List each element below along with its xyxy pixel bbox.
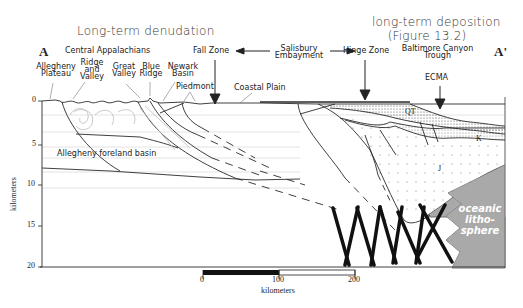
oceanic-line1: oceanic: [455, 203, 505, 214]
section-start-label: A: [39, 45, 48, 58]
heading-long-term-deposition: long-term deposition (Figure 13.2): [372, 16, 482, 42]
heading-deposition-line1: long-term deposition: [372, 16, 482, 28]
label-newark-basin: Newark Basin: [166, 64, 200, 78]
section-end-label: A': [494, 45, 507, 58]
label-allegheny-plateau: Allegheny Plateau: [35, 64, 77, 78]
label-baltimore-canyon-trough: Baltimore Canyon Trough: [400, 46, 475, 60]
label-great-valley: Great Valley: [110, 64, 138, 78]
label-hinge-zone: Hinge Zone: [343, 47, 389, 55]
label-central-appalachians: Central Appalachians: [65, 47, 150, 55]
label-fall-zone: Fall Zone: [193, 47, 229, 55]
label-ridge-and-valley: Ridge and Valley: [78, 59, 106, 81]
heading-figure-ref: (Figure 13.2): [372, 30, 482, 42]
scale-tick-100: 100: [272, 276, 284, 284]
newark-line2: Basin: [166, 71, 200, 78]
depth-axis-label: kilometers: [10, 177, 18, 211]
label-oceanic-lithosphere: oceanic litho- sphere: [455, 203, 505, 236]
depth-tick-10: 10: [27, 180, 35, 188]
label-allegheny-foreland-basin: Allegheny foreland basin: [57, 150, 156, 158]
unit-label-k: K: [476, 135, 482, 143]
heading-long-term-denudation: Long-term denudation: [77, 25, 214, 37]
label-salisbury-embayment: Salisbury Embayment: [268, 46, 330, 60]
depth-tick-5: 5: [32, 140, 36, 148]
label-coastal-plain: Coastal Plain: [234, 84, 286, 92]
scale-tick-0: 0: [200, 276, 204, 284]
unit-label-j: J: [438, 165, 441, 173]
label-blue-ridge: Blue Ridge: [138, 64, 164, 78]
depth-tick-0: 0: [32, 96, 36, 104]
depth-tick-15: 15: [27, 221, 35, 229]
blue-ridge-line2: Ridge: [138, 71, 164, 78]
allegheny-line2: Plateau: [35, 71, 77, 78]
baltimore-line2: Trough: [400, 53, 475, 60]
oceanic-line3: sphere: [455, 225, 505, 236]
unit-label-qt: QT: [405, 108, 416, 116]
oceanic-line2: litho-: [455, 214, 505, 225]
label-ecma: ECMA: [425, 74, 448, 82]
scale-tick-200: 200: [348, 276, 360, 284]
depth-tick-20: 20: [27, 262, 35, 270]
ridge-line3: Valley: [78, 73, 106, 80]
label-piedmont: Piedmont: [176, 83, 214, 91]
salisbury-line2: Embayment: [268, 53, 330, 60]
scale-bar-label: kilometers: [261, 287, 295, 295]
great-valley-line2: Valley: [110, 71, 138, 78]
